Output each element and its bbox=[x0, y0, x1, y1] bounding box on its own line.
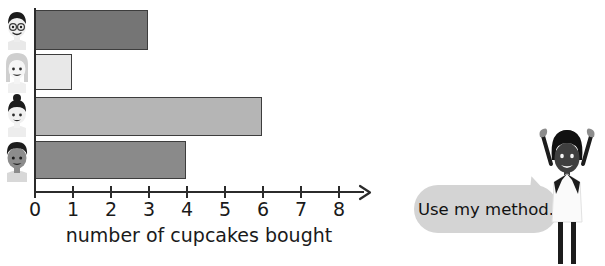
avatar-boy-curly-hair bbox=[2, 138, 32, 182]
x-tick-7 bbox=[300, 186, 302, 198]
worksheet-canvas: 0 1 2 3 4 5 6 7 8 number of cupcakes bou… bbox=[0, 0, 605, 266]
x-axis-title: number of cupcakes bought bbox=[34, 224, 364, 246]
x-tick-5 bbox=[224, 186, 226, 198]
x-tick-label-0: 0 bbox=[20, 198, 50, 220]
x-axis-arrow-icon bbox=[358, 184, 376, 201]
x-tick-label-8: 8 bbox=[324, 198, 354, 220]
x-tick-1 bbox=[72, 186, 74, 198]
x-tick-label-7: 7 bbox=[286, 198, 316, 220]
x-tick-4 bbox=[186, 186, 188, 198]
x-tick-3 bbox=[148, 186, 150, 198]
x-tick-8 bbox=[338, 186, 340, 198]
bar-child-3[interactable] bbox=[34, 97, 262, 136]
x-tick-6 bbox=[262, 186, 264, 198]
bar-chart: 0 1 2 3 4 5 6 7 8 number of cupcakes bou… bbox=[0, 0, 400, 266]
bar-child-1[interactable] bbox=[34, 10, 148, 50]
x-tick-2 bbox=[110, 186, 112, 198]
x-axis-line bbox=[34, 191, 364, 193]
y-axis-line bbox=[34, 8, 36, 193]
x-tick-label-1: 1 bbox=[58, 198, 88, 220]
x-tick-label-5: 5 bbox=[210, 198, 240, 220]
x-tick-label-4: 4 bbox=[172, 198, 202, 220]
x-tick-label-2: 2 bbox=[96, 198, 126, 220]
x-tick-label-3: 3 bbox=[134, 198, 164, 220]
girl-cheering-figure bbox=[534, 124, 600, 266]
bar-child-4[interactable] bbox=[34, 141, 186, 179]
avatar-girl-bun bbox=[2, 93, 32, 137]
character-panel: Use my method. bbox=[400, 0, 605, 266]
x-tick-0 bbox=[34, 186, 36, 198]
x-tick-label-6: 6 bbox=[248, 198, 278, 220]
avatar-girl-long-hair bbox=[2, 50, 32, 94]
avatar-boy-glasses bbox=[2, 8, 32, 52]
bar-child-2[interactable] bbox=[34, 54, 72, 90]
